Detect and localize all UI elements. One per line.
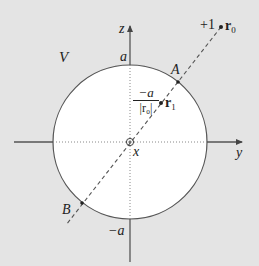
sphere-bottom-label: −a [108, 224, 124, 238]
point-b [80, 201, 84, 205]
point-b-label: B [62, 203, 71, 217]
sphere-top-label: a [120, 50, 127, 64]
point-r0 [219, 25, 223, 29]
image-charge-fraction: −a |r₀| [133, 86, 159, 114]
r0-subscript: 0 [231, 25, 236, 35]
charge-plus-one-label: +1 [200, 18, 215, 32]
diagram-canvas: V z a −a y x A B +1 r0 r1 −a |r₀| [0, 0, 259, 266]
point-r1 [159, 101, 163, 105]
region-v-label: V [59, 50, 68, 65]
image-charge-numerator: −a [133, 86, 159, 99]
z-axis-label: z [119, 22, 124, 36]
image-charge-denominator: |r₀| [133, 102, 159, 114]
x-axis-label: x [133, 145, 139, 159]
r1-subscript: 1 [171, 102, 176, 112]
point-a [176, 80, 180, 84]
diagram-graphics [0, 0, 259, 266]
r0-label: r0 [225, 19, 236, 35]
y-axis-label: y [236, 146, 242, 160]
x-axis-dot [129, 141, 131, 143]
r1-label: r1 [165, 96, 176, 112]
point-a-label: A [171, 63, 180, 77]
